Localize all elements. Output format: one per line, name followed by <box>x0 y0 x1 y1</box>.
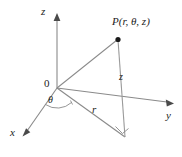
origin-to-point-line <box>57 40 117 88</box>
figure-canvas <box>0 0 182 157</box>
height-z-label: z <box>119 72 123 82</box>
arrow-down-left-icon <box>23 128 31 136</box>
arrow-right-icon <box>166 100 174 107</box>
height-z-line <box>118 40 125 137</box>
theta-angle-label: θ <box>48 95 53 105</box>
arrow-up-icon <box>54 13 61 21</box>
z-axis-label: z <box>41 6 45 17</box>
right-angle-icon <box>116 127 129 134</box>
x-axis-label: x <box>10 127 15 138</box>
radius-r-label: r <box>92 104 96 115</box>
point-p-label: P(r, θ, z) <box>112 16 150 27</box>
point-p-dot-icon <box>115 37 120 42</box>
y-axis-label: y <box>166 110 171 121</box>
origin-label: 0 <box>44 78 50 89</box>
theta-arc-tick-icon <box>71 101 73 105</box>
cylindrical-coordinates-figure: P(r, θ, z) z y x 0 θ r z <box>0 0 182 157</box>
